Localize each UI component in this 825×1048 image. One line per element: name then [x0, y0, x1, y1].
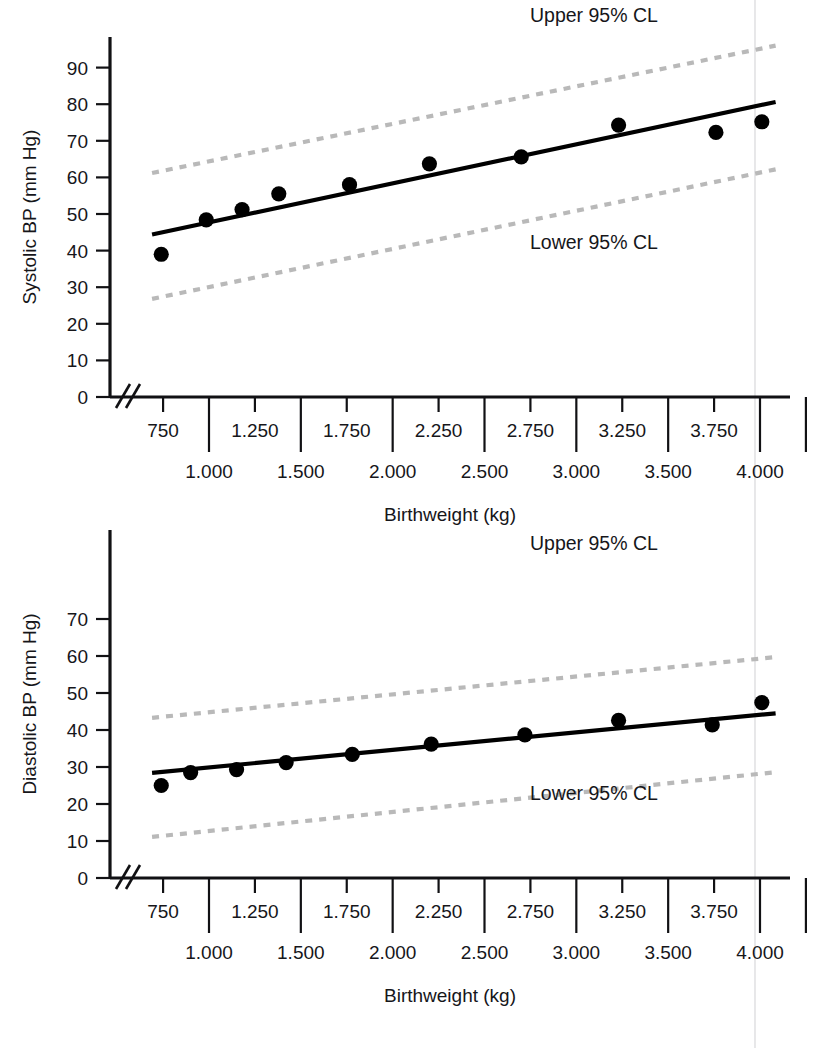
- x-axis-title-top: Birthweight (kg): [384, 504, 516, 525]
- data-point: [514, 149, 529, 164]
- x-tick-label-minor: 3.750: [690, 901, 738, 922]
- x-tick-label-minor: 750: [147, 420, 179, 441]
- data-point: [199, 212, 214, 227]
- data-point: [229, 762, 244, 777]
- y-tick-label: 10: [67, 831, 88, 852]
- data-point: [708, 125, 723, 140]
- y-tick-label: 30: [67, 757, 88, 778]
- y-tick-label: 0: [77, 868, 88, 889]
- y-tick-label: 80: [67, 94, 88, 115]
- x-tick-label-minor: 3.250: [598, 420, 646, 441]
- y-tick-label: 50: [67, 683, 88, 704]
- x-axis-title-bottom: Birthweight (kg): [384, 985, 516, 1006]
- x-tick-label-minor: 2.750: [507, 420, 555, 441]
- x-tick-label-major: 3.000: [553, 942, 601, 963]
- x-tick-label-major: 2.500: [461, 461, 509, 482]
- x-tick-label-major: 1.000: [185, 461, 233, 482]
- data-point: [611, 713, 626, 728]
- y-tick-label: 90: [67, 58, 88, 79]
- y-tick-label: 70: [67, 131, 88, 152]
- data-point: [154, 778, 169, 793]
- x-tick-label-minor: 3.250: [598, 901, 646, 922]
- y-tick-label: 60: [67, 167, 88, 188]
- x-tick-label-minor: 1.750: [323, 901, 371, 922]
- data-point: [234, 202, 249, 217]
- x-tick-label-major: 1.000: [185, 942, 233, 963]
- upper-cl-label-top: Upper 95% CL: [530, 4, 658, 26]
- x-tick-label-minor: 750: [147, 901, 179, 922]
- data-point: [345, 747, 360, 762]
- y-tick-label: 10: [67, 350, 88, 371]
- y-axis-title-top: Systolic BP (mm Hg): [19, 130, 40, 305]
- x-tick-label-minor: 2.250: [415, 901, 463, 922]
- x-tick-label-major: 1.500: [277, 461, 325, 482]
- data-point: [183, 765, 198, 780]
- x-tick-label-major: 2.000: [369, 942, 417, 963]
- upper-cl-label-bottom: Upper 95% CL: [530, 532, 658, 554]
- data-point: [424, 736, 439, 751]
- data-point: [271, 186, 286, 201]
- x-tick-label-minor: 1.250: [231, 901, 279, 922]
- x-tick-label-major: 3.500: [644, 461, 692, 482]
- data-point: [279, 755, 294, 770]
- lower-cl-label-top: Lower 95% CL: [530, 231, 658, 253]
- x-tick-label-major: 2.500: [461, 942, 509, 963]
- figure-root: 0102030405060708090 1.0001.5002.0002.500…: [0, 0, 825, 1048]
- y-tick-label: 30: [67, 277, 88, 298]
- y-tick-label: 70: [67, 609, 88, 630]
- x-tick-label-major: 3.500: [644, 942, 692, 963]
- y-tick-label: 20: [67, 794, 88, 815]
- x-tick-label-minor: 1.750: [323, 420, 371, 441]
- data-point: [517, 727, 532, 742]
- data-point: [705, 717, 720, 732]
- data-point: [154, 247, 169, 262]
- x-tick-label-minor: 2.250: [415, 420, 463, 441]
- y-tick-label: 0: [77, 387, 88, 408]
- y-tick-label: 20: [67, 314, 88, 335]
- y-tick-label: 50: [67, 204, 88, 225]
- x-tick-label-major: 4.000: [736, 461, 784, 482]
- y-axis-title-bottom: Diastolic BP (mm Hg): [19, 613, 40, 794]
- x-tick-label-major: 4.000: [736, 942, 784, 963]
- x-tick-label-major: 2.000: [369, 461, 417, 482]
- x-tick-label-major: 1.500: [277, 942, 325, 963]
- data-point: [754, 114, 769, 129]
- y-tick-label: 60: [67, 646, 88, 667]
- data-point: [422, 156, 437, 171]
- data-point: [754, 695, 769, 710]
- y-tick-label: 40: [67, 241, 88, 262]
- x-tick-label-minor: 1.250: [231, 420, 279, 441]
- lower-cl-label-bottom: Lower 95% CL: [530, 782, 658, 804]
- x-tick-label-minor: 3.750: [690, 420, 738, 441]
- data-point: [611, 117, 626, 132]
- x-tick-label-major: 3.000: [553, 461, 601, 482]
- y-tick-label: 40: [67, 720, 88, 741]
- x-tick-label-minor: 2.750: [507, 901, 555, 922]
- data-point: [342, 177, 357, 192]
